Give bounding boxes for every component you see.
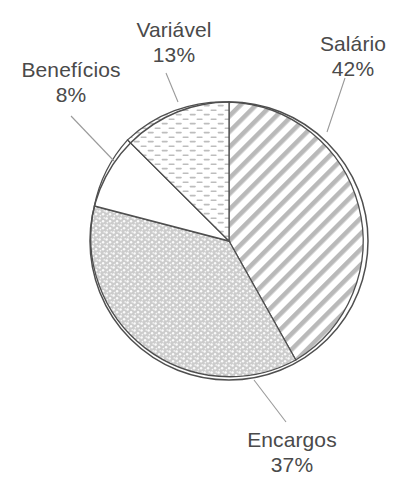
slice-label-encargos-value: 37%: [228, 453, 356, 478]
leader-line-encargos: [254, 380, 286, 422]
slice-label-salario-name: Salário: [299, 32, 407, 57]
slice-label-salario: Salário 42%: [299, 32, 407, 81]
slice-label-beneficios-name: Benefícios: [6, 58, 136, 83]
slice-label-beneficios: Benefícios 8%: [6, 58, 136, 107]
slice-label-salario-value: 42%: [299, 57, 407, 82]
slice-label-variavel-name: Variável: [118, 18, 230, 43]
leader-line-variavel: [166, 73, 178, 102]
leader-line-salario: [327, 78, 345, 132]
slice-label-beneficios-value: 8%: [6, 83, 136, 108]
pie-chart-figure: Variável 13% Salário 42% Benefícios 8% E…: [0, 0, 411, 490]
slice-label-encargos-name: Encargos: [228, 428, 356, 453]
leader-line-beneficios: [71, 116, 114, 161]
slice-label-encargos: Encargos 37%: [228, 428, 356, 477]
